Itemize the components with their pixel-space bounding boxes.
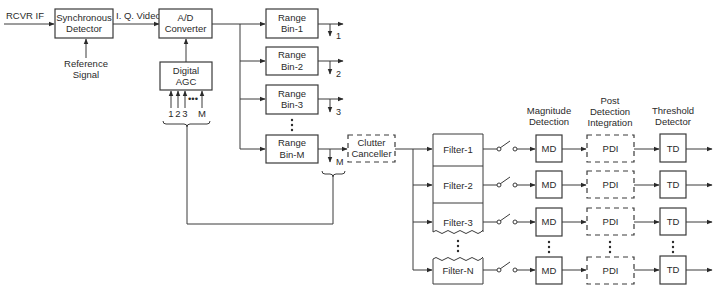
svg-text:A/D: A/D	[178, 12, 194, 23]
svg-text:3: 3	[336, 107, 341, 117]
agc-input-1: 1	[168, 108, 173, 119]
channel-row-3: MD PDI TD	[483, 208, 712, 236]
clutter-canceller-block: Clutter Canceller	[348, 135, 395, 162]
agc-input-ellipsis: •••	[188, 93, 198, 104]
svg-text:Detector: Detector	[66, 23, 102, 34]
channel-row-n: MD PDI TD	[483, 256, 712, 284]
rcvr-if-label: RCVR IF	[6, 10, 44, 21]
svg-text:PDI: PDI	[603, 216, 619, 227]
svg-text:TD: TD	[667, 179, 680, 190]
filter-3-break	[433, 230, 483, 234]
channel-row-2: MD PDI TD	[483, 171, 712, 198]
header-magnitude-detection: Magnitude	[527, 105, 571, 116]
svg-text:Range: Range	[278, 49, 306, 60]
channel-row-1: MD PDI TD	[483, 134, 712, 162]
range-bin-2: Range Bin-2 2	[266, 47, 343, 79]
block-diagram: RCVR IF Synchronous Detector Reference S…	[0, 0, 725, 295]
svg-text:M: M	[336, 157, 344, 167]
svg-text:Synchronous: Synchronous	[56, 12, 112, 23]
range-bin-ellipsis	[291, 119, 293, 131]
filter-2-label: Filter-2	[443, 180, 473, 191]
svg-text:TD: TD	[667, 264, 680, 275]
svg-text:2: 2	[336, 69, 341, 79]
digital-agc-block: Digital AGC	[160, 62, 212, 90]
agc-brace	[163, 121, 210, 127]
svg-text:TD: TD	[667, 143, 680, 154]
header-threshold-detector: Threshold	[652, 105, 694, 116]
svg-text:Bin-1: Bin-1	[281, 23, 303, 34]
svg-text:PDI: PDI	[603, 143, 619, 154]
svg-text:TD: TD	[667, 216, 680, 227]
svg-text:MD: MD	[542, 265, 557, 276]
filter-1-label: Filter-1	[443, 144, 473, 155]
svg-text:Clutter: Clutter	[358, 137, 386, 148]
svg-text:Range: Range	[278, 137, 306, 148]
range-bin-trunk	[212, 24, 240, 149]
svg-text:MD: MD	[542, 179, 557, 190]
svg-text:Detector: Detector	[655, 116, 691, 127]
channel-ellipsis	[548, 241, 674, 253]
svg-text:Converter: Converter	[165, 23, 207, 34]
svg-text:PDI: PDI	[603, 179, 619, 190]
svg-text:Canceller: Canceller	[351, 148, 391, 159]
filter-n-label: Filter-N	[442, 265, 473, 276]
svg-text:1: 1	[336, 31, 341, 41]
svg-text:Range: Range	[278, 12, 306, 23]
svg-text:Bin-2: Bin-2	[281, 61, 303, 72]
svg-text:MD: MD	[542, 143, 557, 154]
filter-n-break	[433, 257, 483, 261]
agc-input-3: 3	[182, 108, 187, 119]
svg-text:PDI: PDI	[603, 265, 619, 276]
reference-signal-label: Reference	[64, 58, 108, 69]
svg-text:MD: MD	[542, 216, 557, 227]
svg-text:AGC: AGC	[176, 76, 197, 87]
range-bin-3: Range Bin-3 3	[266, 85, 343, 117]
synchronous-detector-block: Synchronous Detector	[55, 9, 113, 38]
svg-text:Range: Range	[278, 88, 306, 99]
svg-text:Digital: Digital	[173, 65, 199, 76]
m-tap-brace	[322, 171, 345, 177]
svg-text:Signal: Signal	[73, 69, 99, 80]
iq-video-label: I. Q. Video	[116, 10, 161, 21]
svg-text:Bin-M: Bin-M	[280, 149, 305, 160]
ad-converter-block: A/D Converter	[159, 9, 212, 38]
svg-text:Integration: Integration	[588, 117, 633, 128]
range-bin-m: Range Bin-M M	[266, 135, 347, 167]
svg-text:Detection: Detection	[590, 106, 630, 117]
range-bin-1: Range Bin-1 1	[266, 9, 343, 41]
agc-input-2: 2	[175, 108, 180, 119]
filter-bank: Filter-1 Filter-2 Filter-3 Filter-N	[433, 134, 483, 284]
svg-text:Detection: Detection	[529, 116, 569, 127]
agc-input-m: M	[198, 108, 206, 119]
header-post-detection-integration: Post	[600, 95, 619, 106]
filter-3-label: Filter-3	[443, 217, 473, 228]
svg-text:Bin-3: Bin-3	[281, 99, 303, 110]
filter-trunk	[395, 149, 413, 270]
